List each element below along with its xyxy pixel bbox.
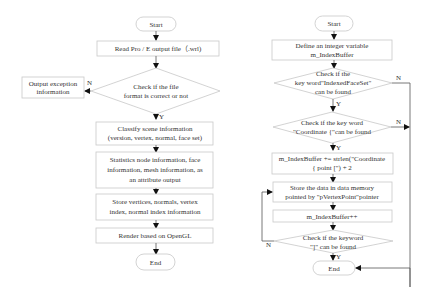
store-data-label-1: Store the data in data memory xyxy=(290,184,375,192)
check-indexed-decision: Check if the key word"IndexedFaceSet" ca… xyxy=(274,68,392,99)
yes-label: Y xyxy=(159,113,164,121)
no-label: N xyxy=(266,241,271,249)
check-indexed-label-3: can be found xyxy=(315,88,352,96)
check-bracket-label-1: Check if the keyword xyxy=(303,234,364,242)
store-label-1: Store vertices, normals, vertex xyxy=(112,198,198,206)
no-label: N xyxy=(396,74,401,82)
no-branch-line xyxy=(392,83,410,287)
check-coordinate-label-1: Check if the key word xyxy=(301,119,364,127)
statistics-box: Statistics node information, face inform… xyxy=(96,152,213,188)
right-start-label: Start xyxy=(327,20,340,28)
render-label: Render based on OpenGL xyxy=(119,232,192,240)
classify-label-1: Classify scene information xyxy=(117,125,193,133)
right-end-label: End xyxy=(328,265,340,273)
no-label: N xyxy=(87,79,92,87)
exception-label-1: Output exception xyxy=(29,80,78,88)
check-indexed-label-1: Check if the xyxy=(316,70,350,78)
store-data-box: Store the data in data memory pointed by… xyxy=(273,182,392,202)
yes-label: Y xyxy=(336,144,341,152)
assign-box: m_IndexBuffer += strlen("Coordinate { po… xyxy=(272,153,393,174)
left-end-node: End xyxy=(136,254,175,270)
loop-back-line xyxy=(262,192,274,241)
store-label-2: index, normal index information xyxy=(110,208,201,216)
check-indexed-label-2: key word"IndexedFaceSet" xyxy=(295,79,372,87)
statistics-label-1: Statistics node information, face xyxy=(110,156,201,164)
statistics-label-2: information, mesh information, as xyxy=(107,166,203,174)
store-data-label-2: pointed by "pVertexPoint"pointer xyxy=(285,193,379,201)
classify-label-2: (version, vertex, normal, face set) xyxy=(108,134,203,142)
check-format-label-2: format is correct or not xyxy=(124,92,189,100)
define-label-2: m_IndexBuffer xyxy=(310,51,354,59)
yes-label: Y xyxy=(336,100,341,108)
check-bracket-label-2: "]" can be found xyxy=(310,243,356,251)
right-start-node: Start xyxy=(315,16,353,31)
left-start-label: Start xyxy=(149,21,162,29)
right-flowchart: Start Define an integer variable m_Index… xyxy=(262,16,410,287)
yes-label: Y xyxy=(336,253,341,261)
increment-box: m_IndexBuffer++ xyxy=(273,210,392,222)
classify-box: Classify scene information (version, ver… xyxy=(96,122,213,145)
increment-label: m_IndexBuffer++ xyxy=(307,213,358,221)
left-start-node: Start xyxy=(136,17,176,31)
left-end-label: End xyxy=(150,259,162,267)
check-coordinate-decision: Check if the key word "Coordinate {"can … xyxy=(273,112,391,143)
exception-box: Output exception information xyxy=(22,77,84,98)
check-bracket-decision: Check if the keyword "]" can be found xyxy=(274,230,393,253)
check-format-decision: Check if the file format is correct or n… xyxy=(91,68,220,114)
exception-label-2: information xyxy=(36,88,70,96)
check-coordinate-label-2: "Coordinate {"can be found xyxy=(293,128,372,136)
check-format-label-1: Check if the file xyxy=(133,83,178,91)
render-box: Render based on OpenGL xyxy=(96,228,213,243)
read-file-box: Read Pro / E output file（.wrl) xyxy=(97,41,219,56)
right-end-node: End xyxy=(313,261,355,275)
statistics-label-3: an attribute output xyxy=(129,176,180,184)
read-file-label: Read Pro / E output file（.wrl) xyxy=(115,45,202,53)
assign-label-1: m_IndexBuffer += strlen("Coordinate xyxy=(279,155,385,163)
assign-label-2: { point [") + 2 xyxy=(312,164,352,172)
flowchart-canvas: Start Read Pro / E output file（.wrl) Che… xyxy=(0,0,433,297)
no-label: N xyxy=(396,118,401,126)
left-flowchart: Start Read Pro / E output file（.wrl) Che… xyxy=(22,17,220,270)
define-box: Define an integer variable m_IndexBuffer xyxy=(272,40,392,60)
define-label-1: Define an integer variable xyxy=(296,42,369,50)
store-box: Store vertices, normals, vertex index, n… xyxy=(96,194,213,220)
